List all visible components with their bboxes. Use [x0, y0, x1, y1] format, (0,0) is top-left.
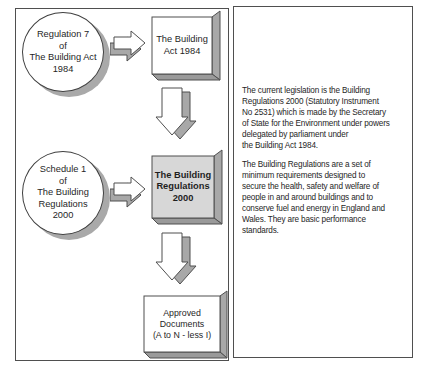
box-building-regulations-2000: The Building Regulations 2000	[149, 147, 226, 226]
ellipse-regulation-7-label: Regulation 7 of The Building Act 1984	[29, 29, 96, 75]
arrow-right-icon	[110, 176, 148, 212]
info-paragraph-1: The current legislation is the Building …	[242, 85, 407, 151]
arrow-down-icon	[155, 87, 201, 144]
box-building-act-1984-label: The Building Act 1984	[156, 34, 208, 57]
ellipse-regulation-7: Regulation 7 of The Building Act 1984	[22, 12, 104, 92]
box-building-regulations-2000-label: The Building Regulations 2000	[155, 170, 211, 205]
ellipse-schedule-1-label: Schedule 1 of The Building Regulations 2…	[37, 164, 89, 222]
box-building-act-1984: The Building Act 1984	[149, 9, 224, 81]
arrow-right-icon	[110, 30, 148, 66]
ellipse-schedule-1: Schedule 1 of The Building Regulations 2…	[22, 151, 104, 235]
page: The current legislation is the Building …	[0, 0, 425, 378]
info-paragraph-2: The Building Regulations are a set of mi…	[242, 159, 407, 236]
arrow-down-icon	[155, 232, 201, 289]
box-approved-documents: Approved Documents (A to N - less I)	[141, 290, 230, 360]
box-approved-documents-label: Approved Documents (A to N - less I)	[153, 308, 211, 341]
info-panel: The current legislation is the Building …	[233, 6, 413, 358]
